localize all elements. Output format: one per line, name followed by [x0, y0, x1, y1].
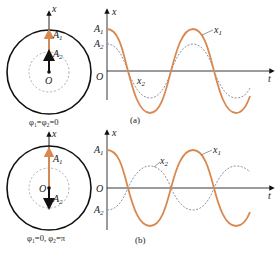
phasor-diagram-b: x A1 A2 O φ₁=0, φ₂=π [7, 128, 91, 243]
y-axis-label-a: x [111, 6, 117, 17]
origin-dot-a [47, 70, 51, 74]
phasor-diagram-a: x A1 A2 O φ₁=φ₂=0 [7, 3, 91, 127]
curve-x1-leader-b [201, 150, 212, 155]
y-axis-label-b: x [111, 127, 117, 138]
vector-A2-label-a: A2 [52, 48, 63, 61]
graph-b: x t O A1 A2 x1 x2 (b) [93, 127, 272, 245]
graph-origin-label-b: O [96, 183, 103, 194]
curve-x2-label-b: x2 [159, 155, 168, 168]
phasor-axis-label-b: x [51, 128, 57, 139]
phasor-origin-label-a: O [45, 75, 52, 86]
curve-x1-label-b: x1 [212, 144, 221, 157]
tick-A1-b: A1 [93, 144, 104, 157]
phase-caption-b: φ₁=0, φ₂=π [27, 233, 66, 243]
phasor-origin-label-b: O [39, 183, 46, 194]
phase-caption-a: φ₁=φ₂=0 [29, 117, 59, 127]
curve-x2-label-a: x2 [136, 75, 145, 88]
tick-A1-a: A1 [93, 23, 104, 36]
figure: x A1 A2 O φ₁=φ₂=0 x t O A1 A2 x1 x2 (a) … [0, 0, 279, 258]
curve-x1-label-a: x1 [213, 24, 222, 37]
tick-A2-a: A2 [93, 38, 104, 51]
phasor-axis-label-a: x [51, 3, 57, 14]
vector-A2-label-b: A2 [52, 193, 63, 206]
graph-origin-label-a: O [96, 71, 103, 82]
t-axis-label-b: t [268, 190, 271, 201]
caption-a: (a) [130, 115, 140, 125]
tick-A2-b: A2 [93, 204, 104, 217]
graph-a: x t O A1 A2 x1 x2 (a) [93, 6, 272, 125]
origin-dot-b [47, 186, 51, 190]
curve-x1-leader-a [202, 30, 213, 35]
vector-A1-label-b: A1 [52, 153, 63, 166]
t-axis-label-a: t [268, 73, 271, 84]
caption-b: (b) [135, 235, 146, 245]
